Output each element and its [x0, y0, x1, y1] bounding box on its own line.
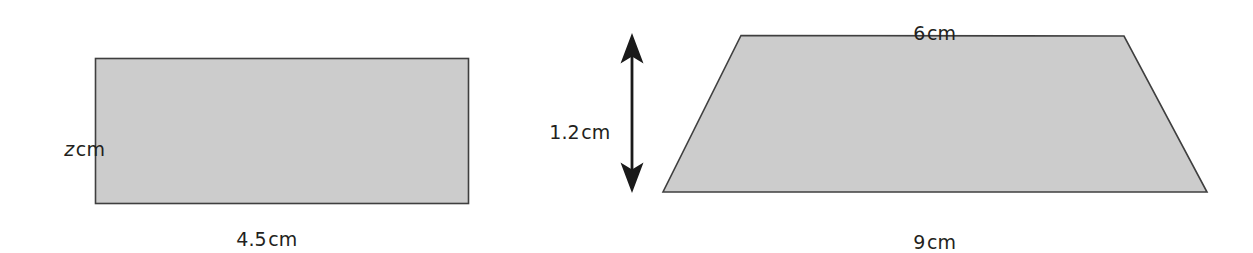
- trapezoid-bottom-value: 9: [913, 231, 925, 253]
- rectangle-width-label: 4.5cm: [224, 211, 297, 249]
- rectangle-width-unit: cm: [268, 228, 297, 250]
- trapezoid-bottom-unit: cm: [927, 231, 956, 253]
- rectangle-width-value: 4.5: [236, 228, 267, 250]
- trapezoid-figure: [621, 33, 1208, 193]
- trapezoid-height-unit: cm: [581, 121, 610, 143]
- rectangle-height-unit: cm: [76, 138, 105, 160]
- rectangle-height-variable: z: [64, 138, 74, 160]
- height-arrow: [621, 33, 644, 193]
- rectangle-height-label: zcm: [52, 121, 105, 159]
- trapezoid-top-value: 6: [913, 22, 925, 44]
- trapezoid-height-label: 1.2cm: [537, 104, 610, 142]
- rectangle-shape: [96, 59, 469, 204]
- trapezoid-top-label: 6cm: [901, 5, 956, 43]
- trapezoid-top-unit: cm: [927, 22, 956, 44]
- trapezoid-height-value: 1.2: [549, 121, 580, 143]
- rectangle-figure: [96, 59, 469, 204]
- trapezoid-bottom-label: 9cm: [901, 214, 956, 252]
- trapezoid-shape: [663, 36, 1207, 193]
- height-arrow-shaft: [631, 40, 634, 186]
